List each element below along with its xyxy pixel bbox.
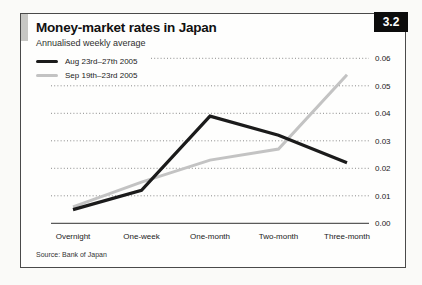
x-category-label: Overnight [56, 232, 91, 241]
series-swatch-icon [36, 60, 58, 64]
series-line [73, 116, 347, 210]
page-background: { "panel": { "title": "Money-market rate… [0, 0, 422, 285]
y-tick-label: 0.02 [375, 164, 391, 173]
x-category-label: One-month [190, 232, 230, 241]
y-tick-label: 0.03 [375, 137, 391, 146]
series-swatch-icon [36, 74, 58, 77]
series-line [73, 75, 347, 207]
y-tick-label: 0.01 [375, 192, 391, 201]
y-tick-label: 0.00 [375, 219, 391, 228]
x-category-label: One-week [123, 232, 160, 241]
source-note: Source: Bank of Japan [36, 251, 107, 258]
x-category-label: Three-month [324, 232, 370, 241]
chart-legend: Aug 23rd–27th 2005 Sep 19th–23rd 2005 [36, 56, 138, 81]
legend-label: Aug 23rd–27th 2005 [65, 57, 138, 66]
y-tick-label: 0.05 [375, 82, 391, 91]
x-category-label: Two-month [259, 232, 299, 241]
chart-plot-area: 0.060.050.040.030.020.010.00OvernightOne… [21, 14, 407, 269]
y-tick-label: 0.06 [375, 54, 391, 63]
chart-panel: Money-market rates in Japan Annualised w… [20, 13, 406, 268]
legend-label: Sep 19th–23rd 2005 [65, 71, 138, 80]
y-tick-label: 0.04 [375, 109, 391, 118]
legend-item: Aug 23rd–27th 2005 [36, 56, 138, 67]
legend-item: Sep 19th–23rd 2005 [36, 70, 138, 81]
